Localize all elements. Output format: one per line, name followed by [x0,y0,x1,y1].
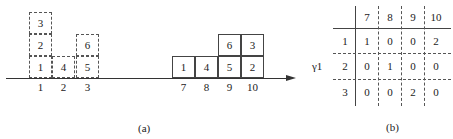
col-header: 10 [425,11,447,23]
x-tick-label: 7 [172,81,195,93]
x-tick-label: 9 [218,81,241,93]
block: 1 [172,56,195,78]
x-axis-arrow-icon [286,75,296,81]
x-tick-label: 3 [76,81,99,93]
figure-a-caption: (a) [138,122,150,134]
table-cell: 0 [379,86,401,98]
table-cell: 2 [425,35,447,47]
col-header: 8 [379,11,401,23]
x-axis-line [6,78,292,79]
block: 6 [218,34,241,56]
block: 4 [195,56,218,78]
block: 1 [29,56,52,78]
x-tick-label: 1 [29,81,52,93]
block: 3 [29,12,52,34]
x-tick-label: 2 [52,81,75,93]
row-header: 1 [334,35,356,47]
figure-b-caption: (b) [386,121,399,133]
table-cell: 1 [356,35,378,47]
row-header: 2 [334,60,356,72]
table-cell: 0 [402,60,424,72]
table-cell: 0 [425,60,447,72]
table-cell: 0 [402,35,424,47]
row-header: 3 [334,86,356,98]
table-cell: 0 [356,60,378,72]
x-tick-label: 10 [241,81,264,93]
col-header: 9 [402,11,424,23]
row-divider [333,79,451,80]
table-cell: 1 [379,60,401,72]
row-divider [333,53,451,54]
block: 4 [52,56,75,78]
block: 3 [241,34,264,56]
row-axis-label: γ1 [312,60,322,72]
x-tick-label: 8 [195,81,218,93]
block: 2 [241,56,264,78]
table-cell: 0 [425,86,447,98]
table-cell: 2 [402,86,424,98]
table-cell: 0 [356,86,378,98]
block: 6 [76,34,99,56]
header-hline [333,28,451,29]
block: 5 [76,56,99,78]
block: 5 [218,56,241,78]
col-header: 7 [356,11,378,23]
table-cell: 0 [379,35,401,47]
block: 2 [29,34,52,56]
